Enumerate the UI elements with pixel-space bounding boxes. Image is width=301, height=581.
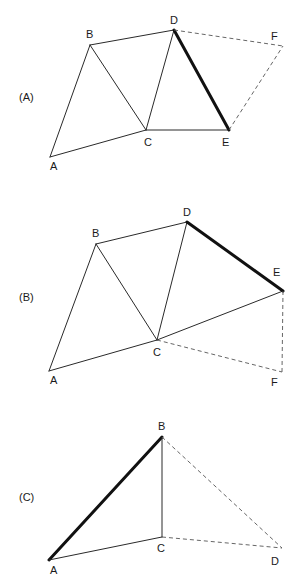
vertex-label-f: F xyxy=(271,30,278,42)
vertex-label-b: B xyxy=(92,227,99,239)
edge-ce-solid xyxy=(157,291,283,340)
edge-ef-dashed xyxy=(229,46,283,130)
edge-bd-solid xyxy=(96,222,187,244)
edge-ac-solid xyxy=(50,130,146,157)
vertex-label-e: E xyxy=(273,266,280,278)
vertex-label-c: C xyxy=(144,136,152,148)
vertex-label-e: E xyxy=(222,136,229,148)
panel-label-b: (B) xyxy=(19,291,34,303)
panel-b: ABCDEF(B) xyxy=(19,206,283,388)
vertex-label-c: C xyxy=(153,346,161,358)
edge-bc-solid xyxy=(96,244,157,340)
vertex-label-b: B xyxy=(158,420,165,432)
vertex-label-d: D xyxy=(170,14,178,26)
edge-ab-solid xyxy=(50,45,90,157)
edge-bd-dashed xyxy=(162,437,282,548)
edge-df-dashed xyxy=(174,30,283,46)
vertex-label-a: A xyxy=(50,160,58,172)
triangle-mesh-diagram: ABCDEF(A) ABCDEF(B) ABCD(C) xyxy=(0,0,301,581)
vertex-label-d: D xyxy=(271,555,279,567)
vertex-label-b: B xyxy=(86,28,93,40)
vertex-label-a: A xyxy=(50,374,58,386)
edge-cd-solid xyxy=(157,222,187,340)
panel-c: ABCD(C) xyxy=(19,420,282,576)
edge-de-bold xyxy=(187,222,283,291)
edge-ab-solid xyxy=(49,244,96,371)
vertex-label-a: A xyxy=(50,564,58,576)
vertex-label-d: D xyxy=(183,206,191,218)
edge-bd-solid xyxy=(90,30,174,45)
edge-ef-dashed xyxy=(282,291,283,372)
edge-ab-bold xyxy=(49,437,162,560)
edge-de-bold xyxy=(174,30,229,130)
edge-cd-dashed xyxy=(162,537,282,548)
diagram-canvas: ABCDEF(A) ABCDEF(B) ABCD(C) xyxy=(0,0,301,581)
panel-a: ABCDEF(A) xyxy=(19,14,283,172)
vertex-label-c: C xyxy=(157,542,165,554)
edge-bc-solid xyxy=(90,45,146,130)
edge-cd-solid xyxy=(146,30,174,130)
edge-cf-dashed xyxy=(157,340,282,372)
panel-label-a: (A) xyxy=(19,91,34,103)
vertex-label-f: F xyxy=(271,376,278,388)
panel-label-c: (C) xyxy=(19,491,34,503)
edge-ac-solid xyxy=(49,340,157,371)
